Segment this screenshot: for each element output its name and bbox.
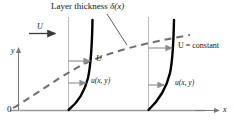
boundary-layer-figure: Layer thickness δ(x) U U = constant U u(… — [0, 0, 234, 136]
delta-of-x-symbol: δ(x) — [110, 1, 124, 11]
velocity-profile-label-2: u(x, y) — [175, 79, 194, 87]
freestream-constant-label: U = constant — [178, 42, 219, 50]
figure-canvas — [0, 0, 234, 136]
velocity-profile-label-1: u(x, y) — [91, 77, 110, 85]
figure-title: Layer thickness δ(x) — [51, 2, 124, 11]
x-axis-label: x — [223, 106, 227, 114]
velocity-profile-curve-1 — [69, 20, 93, 110]
profile-top-velocity-label: U — [96, 55, 102, 63]
title-leader-line — [107, 14, 127, 45]
velocity-profile-curve-2 — [149, 20, 175, 110]
figure-title-text: Layer thickness — [51, 1, 110, 11]
origin-label: 0 — [7, 105, 12, 114]
y-axis-label: y — [11, 47, 15, 55]
freestream-velocity-label: U — [37, 23, 43, 31]
boundary-layer-thickness-curve — [13, 35, 190, 108]
